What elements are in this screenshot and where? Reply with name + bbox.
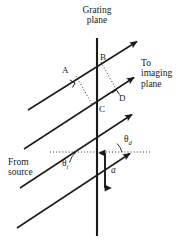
- grating-plane-label: Grating plane: [58, 5, 136, 26]
- from-source-label: From source: [8, 157, 58, 178]
- angle-arc-diffracted: [117, 144, 122, 153]
- construction-line-b-to-d: [101, 62, 117, 91]
- diffraction-grating-figure: Grating plane To imaging plane From sour…: [0, 0, 188, 247]
- ray-path-2: [24, 78, 134, 150]
- to-imaging-plane-label: To imaging plane: [141, 58, 188, 89]
- point-label-b: B: [100, 53, 106, 63]
- construction-line-a-to-c: [76, 76, 92, 104]
- point-label-c: C: [99, 105, 105, 115]
- theta-subscript-diffracted: d: [129, 139, 132, 146]
- angle-label-diffracted: θd: [124, 134, 132, 146]
- grating-spacing-label: a: [111, 165, 116, 175]
- point-label-a: A: [62, 66, 69, 76]
- theta-subscript-incident: i: [67, 163, 69, 170]
- figure-canvas: [0, 0, 188, 247]
- point-label-d: D: [119, 94, 126, 104]
- angle-label-incident: θi: [62, 158, 68, 170]
